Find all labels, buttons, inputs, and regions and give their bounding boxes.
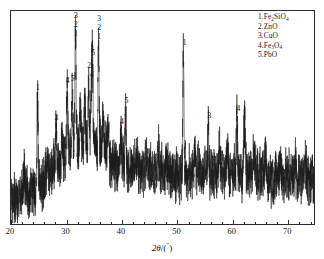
peak-label-3-at-28.2: 3 (55, 114, 59, 122)
x-minor-tick (222, 222, 223, 224)
x-minor-tick (133, 222, 134, 224)
x-tick-50 (177, 220, 178, 224)
peak-label-3-2-1-at-35.9: 321 (97, 14, 101, 42)
peak-label-3-2-1-at-31.7: 321 (74, 11, 78, 39)
x-minor-tick (111, 222, 112, 224)
x-minor-tick (78, 222, 79, 224)
x-minor-tick (22, 222, 23, 224)
x-minor-tick (211, 222, 212, 224)
xrd-figure: 134532124532145134 1.Fe2SiO42.ZnO3.CuO4.… (0, 0, 324, 259)
peak-label-5-at-34.8: 5 (91, 49, 95, 57)
x-axis-title-unit: /(″) (161, 243, 172, 253)
x-tick-label-40: 40 (117, 228, 125, 236)
peak-label-1-at-51.3: 1 (183, 39, 187, 47)
x-minor-tick (255, 222, 256, 224)
x-minor-tick (44, 222, 45, 224)
x-axis-title: 2θ/(″) (0, 241, 324, 253)
x-minor-tick (299, 222, 300, 224)
x-tick-label-30: 30 (61, 228, 69, 236)
x-tick-label-50: 50 (172, 228, 180, 236)
peak-label-4-at-40: 4 (120, 118, 124, 126)
x-tick-60 (233, 220, 234, 224)
peak-label-4-at-30.2: 4 (66, 77, 70, 85)
peak-label-5-at-40.8: 5 (124, 97, 128, 105)
x-axis-title-symbol: 2θ (152, 243, 161, 253)
peak-label-1-at-24.8: 1 (36, 84, 40, 92)
x-minor-tick (266, 222, 267, 224)
legend-item-5: 5.PbO (258, 51, 316, 61)
x-tick-40 (122, 220, 123, 224)
legend: 1.Fe2SiO42.ZnO3.CuO4.Fe3O45.PbO (258, 13, 316, 61)
peak-label-5-at-31.1: 5 (71, 75, 75, 83)
x-minor-tick (200, 222, 201, 224)
x-minor-tick (100, 222, 101, 224)
x-minor-tick (244, 222, 245, 224)
x-tick-70 (288, 220, 289, 224)
x-minor-tick (189, 222, 190, 224)
peak-label-2-at-34.1: 2 (87, 62, 91, 70)
x-tick-20 (11, 220, 12, 224)
x-minor-tick (33, 222, 34, 224)
peak-label-4-at-34.6: 4 (90, 71, 94, 79)
x-tick-30 (67, 220, 68, 224)
x-minor-tick (55, 222, 56, 224)
x-tick-label-60: 60 (228, 228, 236, 236)
x-tick-label-70: 70 (283, 228, 291, 236)
x-minor-tick (89, 222, 90, 224)
x-minor-tick (155, 222, 156, 224)
x-minor-tick (311, 222, 312, 224)
x-tick-label-20: 20 (6, 228, 14, 236)
peak-label-4-at-61: 4 (236, 105, 240, 113)
x-minor-tick (166, 222, 167, 224)
x-minor-tick (144, 222, 145, 224)
x-minor-tick (277, 222, 278, 224)
peak-label-3-at-55.8: 3 (208, 112, 212, 120)
